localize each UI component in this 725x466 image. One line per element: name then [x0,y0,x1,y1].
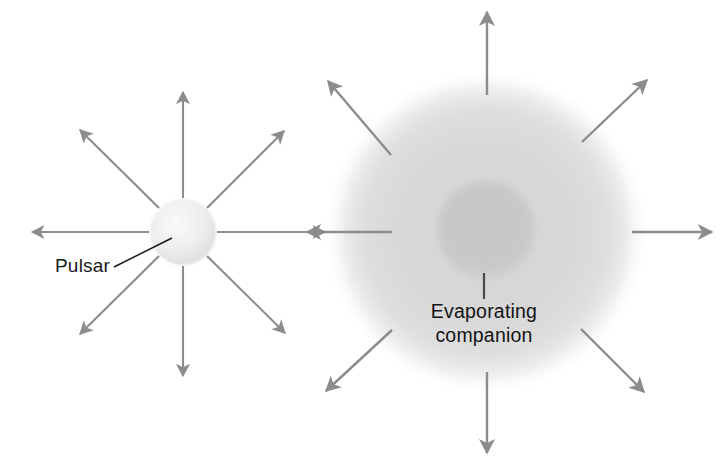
pulsar-label: Pulsar [55,255,111,276]
companion-label-line1: Evaporating [431,300,537,322]
pulsar-sphere-body [150,199,216,265]
pulsar-sphere [150,199,216,265]
pulsar-evaporating-companion-figure: Pulsar Evaporating companion [0,0,725,466]
companion-core-body [437,181,535,279]
companion-core [437,181,535,279]
diagram-canvas: Pulsar Evaporating companion [0,0,725,466]
companion-label-line2: companion [435,324,532,346]
